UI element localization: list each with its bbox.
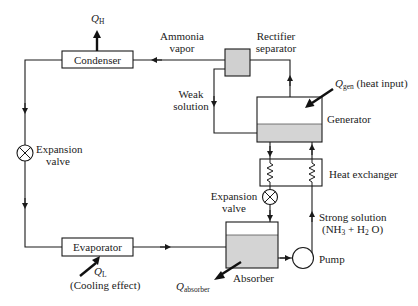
q-h-label: QH bbox=[91, 12, 104, 28]
expansion-valve-right-label: Expansion valve bbox=[210, 190, 258, 214]
pipe-generator-to-rectifier bbox=[250, 60, 290, 97]
generator-liquid bbox=[257, 124, 322, 142]
evaporator-label: Evaporator bbox=[62, 241, 133, 253]
pipe-weak-solution bbox=[214, 69, 257, 133]
rectifier-box bbox=[225, 49, 250, 76]
pump-icon bbox=[293, 248, 314, 269]
expansion-valve-left-label: Expansion valve bbox=[36, 143, 80, 167]
condenser-label: Condenser bbox=[62, 54, 133, 66]
ammonia-vapor-label: Ammonia vapor bbox=[156, 30, 208, 54]
heat-exchanger-label: Heat exchanger bbox=[329, 168, 398, 180]
strong-solution-label: Strong solution (NH3 + H2 O) bbox=[319, 211, 387, 239]
pump-label: Pump bbox=[319, 253, 345, 265]
rectifier-separator-label: Rectifier separator bbox=[254, 30, 298, 54]
cooling-effect-label: (Cooling effect) bbox=[70, 279, 140, 291]
pipe-valve-to-evaporator bbox=[25, 161, 62, 247]
q-gen-label: Qgen (heat input) bbox=[335, 77, 408, 93]
absorber-label: Absorber bbox=[233, 272, 274, 284]
generator-label: Generator bbox=[327, 113, 371, 125]
absorber-liquid bbox=[226, 235, 278, 268]
weak-solution-label: Weak solution bbox=[173, 88, 209, 112]
q-absorber-label: Qabsorber bbox=[176, 280, 210, 296]
expansion-valve-right-icon bbox=[263, 190, 278, 205]
expansion-valve-left-icon bbox=[17, 145, 33, 161]
pipe-condenser-to-valve bbox=[25, 60, 62, 145]
